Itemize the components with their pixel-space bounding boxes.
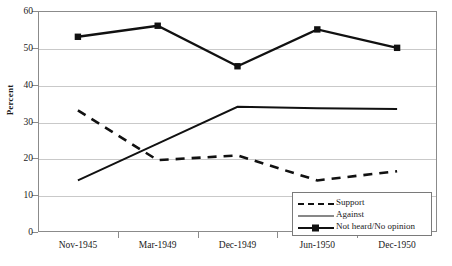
- legend-entry-against: Against: [296, 208, 427, 220]
- series-line-1: [78, 107, 397, 181]
- chart-figure: Percent 0102030405060 Nov-1945Mar-1949De…: [0, 0, 452, 266]
- series-line-0: [78, 110, 397, 180]
- data-point-marker: [394, 45, 400, 51]
- legend-label-not-heard: Not heard/No opinion: [336, 221, 415, 232]
- legend-key-dashed-icon: [296, 196, 336, 208]
- legend-label-against: Against: [336, 209, 364, 220]
- legend-label-support: Support: [336, 197, 365, 208]
- legend-entry-support: Support: [296, 196, 427, 208]
- data-point-marker: [75, 34, 81, 40]
- data-point-marker: [155, 23, 161, 29]
- legend: Support Against Not heard/No opinion: [292, 192, 432, 236]
- series-line-2: [78, 26, 397, 67]
- legend-key-solid-icon: [296, 208, 336, 220]
- data-point-marker: [314, 26, 320, 32]
- legend-key-square-marker-icon: [296, 220, 336, 232]
- legend-entry-not-heard: Not heard/No opinion: [296, 220, 427, 232]
- data-point-marker: [234, 63, 240, 69]
